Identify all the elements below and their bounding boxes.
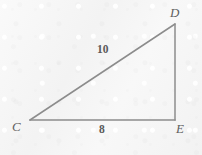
vertex-label-e: E [176,122,184,135]
triangle-side-cd [30,24,175,120]
side-length-label-cd: 10 [97,44,109,56]
side-length-label-ce: 8 [99,124,105,136]
vertex-label-d: D [170,6,179,19]
geometry-figure-canvas: C D E 10 8 [0,0,202,155]
vertex-label-c: C [12,120,21,133]
